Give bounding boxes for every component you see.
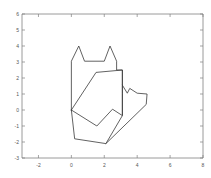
- x-tick-label: 4: [136, 162, 139, 168]
- x-tick-label: 0: [70, 162, 73, 168]
- y-tick-label: -3: [15, 155, 20, 161]
- y-tick-label: -2: [15, 139, 20, 145]
- y-tick-label: 0: [16, 107, 19, 113]
- figure-background: [0, 0, 211, 178]
- y-tick-label: 4: [16, 43, 19, 49]
- y-tick-label: 5: [16, 27, 19, 33]
- figure-panel: -202468 -3-2-10123456: [0, 0, 211, 178]
- x-tick-label: 2: [103, 162, 106, 168]
- y-tick-label: -1: [15, 123, 20, 129]
- y-tick-label: 2: [16, 75, 19, 81]
- plot-canvas: -202468 -3-2-10123456: [0, 0, 211, 178]
- y-tick-label: 6: [16, 11, 19, 17]
- y-tick-label: 1: [16, 91, 19, 97]
- x-tick-label: 8: [202, 162, 205, 168]
- y-tick-label: 3: [16, 59, 19, 65]
- x-tick-label: 6: [169, 162, 172, 168]
- x-tick-label: -2: [36, 162, 41, 168]
